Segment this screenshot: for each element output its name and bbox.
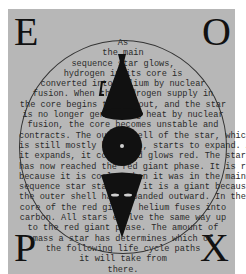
megaphone-icon xyxy=(100,54,143,120)
cone-face-icon xyxy=(101,173,143,239)
figure-group xyxy=(0,0,246,274)
disc-icon xyxy=(102,126,142,166)
